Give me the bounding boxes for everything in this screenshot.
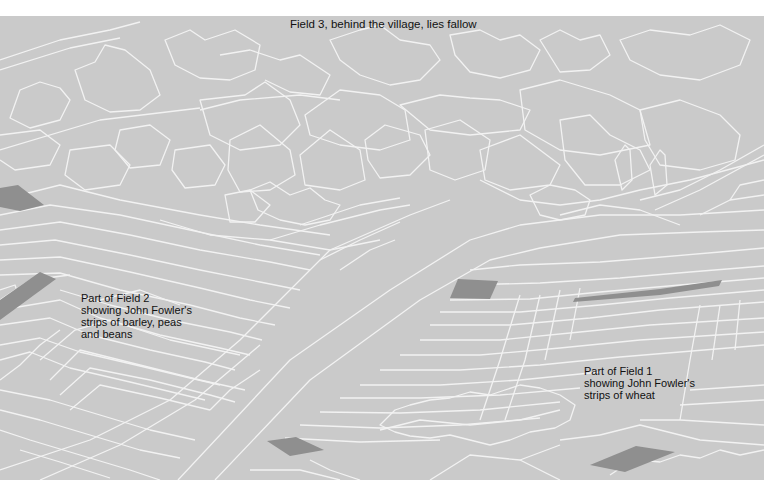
field2-caption-line: Part of Field 2: [81, 292, 192, 304]
field-map-illustration: Field 3, behind the village, lies fallow…: [0, 16, 764, 480]
field1-caption-line: Part of Field 1: [584, 365, 695, 377]
field2-caption: Part of Field 2 showing John Fowler's st…: [81, 292, 192, 340]
field1-caption-line: showing John Fowler's: [584, 377, 695, 389]
field2-caption-line: showing John Fowler's: [81, 304, 192, 316]
field1-caption: Part of Field 1 showing John Fowler's st…: [584, 365, 695, 401]
field2-caption-line: and beans: [81, 328, 192, 340]
field2-caption-line: strips of barley, peas: [81, 316, 192, 328]
field-strips-drawing: [0, 16, 764, 480]
field3-caption: Field 3, behind the village, lies fallow: [290, 18, 477, 30]
field1-caption-line: strips of wheat: [584, 389, 695, 401]
